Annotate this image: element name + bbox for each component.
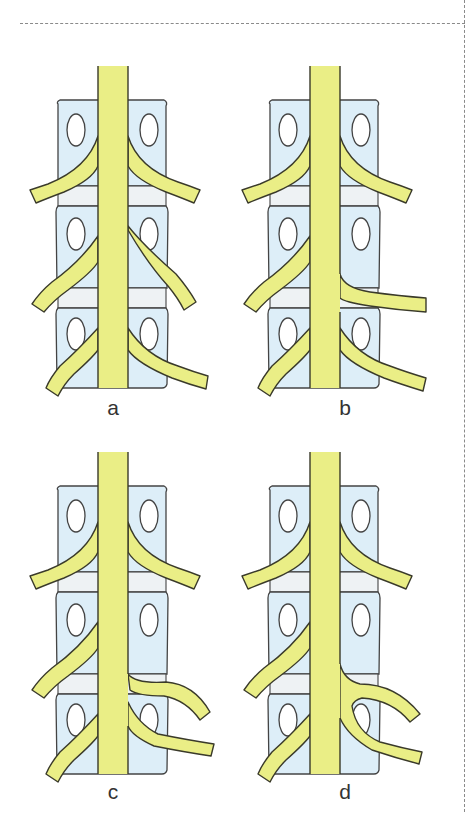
panel-label-b: b (325, 396, 365, 420)
panel-d: d (218, 452, 450, 819)
dashed-frame-right (464, 0, 465, 812)
panel-label-a: a (93, 396, 133, 420)
nerve-root-diagram-c (18, 452, 250, 792)
panel-label-d: d (325, 780, 365, 804)
nerve-root-diagram-a (18, 66, 250, 406)
nerve-root-diagram-d (218, 452, 450, 792)
panel-c: c (18, 452, 250, 819)
panel-a: a (18, 66, 250, 436)
nerve-root-diagram-b (218, 66, 450, 406)
dashed-frame-top (20, 23, 465, 24)
panel-b: b (218, 66, 450, 436)
panel-label-c: c (93, 780, 133, 804)
